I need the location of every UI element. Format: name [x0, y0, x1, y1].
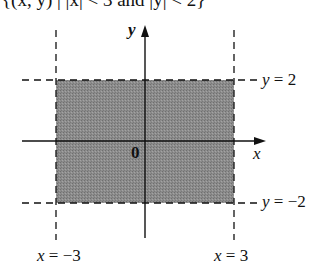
label-eq: = −3: [45, 246, 81, 265]
label-x-equals-neg3: x = −3: [37, 246, 81, 266]
y-axis-label: y: [128, 20, 136, 40]
label-x-equals-3: x = 3: [214, 246, 248, 266]
label-var: x: [37, 246, 45, 265]
y-axis-arrow-icon: [141, 25, 149, 37]
label-var: y: [262, 192, 270, 211]
region-diagram: [0, 0, 332, 268]
x-axis-label: x: [253, 144, 261, 164]
label-eq: = 3: [222, 246, 249, 265]
label-var: y: [262, 70, 270, 89]
label-eq: = 2: [270, 70, 297, 89]
label-y-equals-neg2: y = −2: [262, 192, 306, 212]
label-y-equals-2: y = 2: [262, 70, 296, 90]
label-eq: = −2: [270, 192, 306, 211]
origin-label: 0: [131, 143, 140, 163]
label-var: x: [214, 246, 222, 265]
